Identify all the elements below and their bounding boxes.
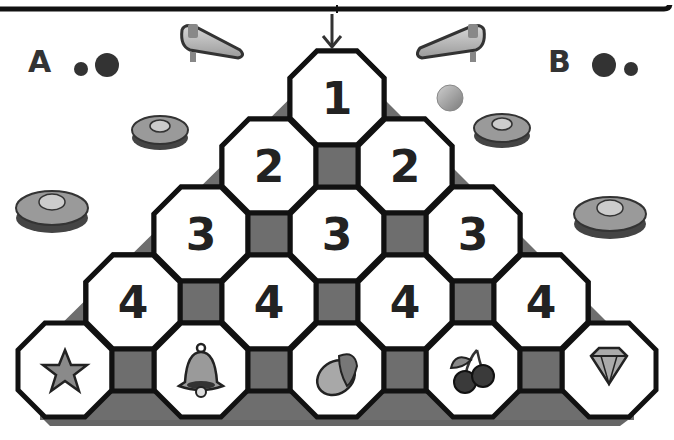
bumper-left-large xyxy=(16,191,88,233)
cell-number: 2 xyxy=(254,141,285,192)
cell-number: 3 xyxy=(458,209,489,260)
peg xyxy=(180,281,222,323)
cell-number: 3 xyxy=(322,209,353,260)
cell-number: 4 xyxy=(254,277,285,328)
cell-number: 2 xyxy=(390,141,421,192)
cell-number: 1 xyxy=(322,73,353,124)
bumper-left-small xyxy=(132,116,188,150)
peg xyxy=(384,213,426,255)
left-flipper xyxy=(182,24,243,62)
peg xyxy=(248,213,290,255)
cell-number: 4 xyxy=(390,277,421,328)
cell-number: 3 xyxy=(186,209,217,260)
peg xyxy=(316,145,358,187)
right-flipper xyxy=(417,24,484,62)
peg xyxy=(452,281,494,323)
pinball xyxy=(437,85,463,111)
bumper-right-small xyxy=(474,114,530,148)
cell-number: 4 xyxy=(118,277,149,328)
cell-number: 4 xyxy=(526,277,557,328)
drop-arrow-icon xyxy=(323,14,341,47)
pachinko-board: 1 2 2 3 3 3 4 4 xyxy=(0,0,674,440)
peg xyxy=(316,281,358,323)
bumper-right-large xyxy=(574,197,646,239)
